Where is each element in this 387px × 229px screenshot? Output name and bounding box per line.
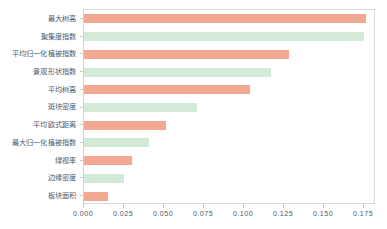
x-axis-tick-label: 0.075 (193, 209, 213, 218)
bar (84, 32, 364, 41)
y-axis-label: 斑块密度 (48, 98, 76, 116)
bar (84, 103, 197, 112)
x-axis-tick-mark (363, 204, 364, 208)
y-axis-label: 平均树高 (48, 80, 76, 98)
x-axis-tick-label: 0.150 (313, 209, 333, 218)
x-axis-tick-mark (243, 204, 244, 208)
bar (84, 85, 250, 94)
bar-series (84, 10, 374, 203)
bar-row (84, 99, 374, 117)
bar (84, 192, 108, 201)
x-axis-tick-mark (163, 204, 164, 208)
bar (84, 14, 366, 23)
bar (84, 156, 132, 165)
x-axis-tick-label: 0.175 (353, 209, 373, 218)
x-axis-tick-label: 0.125 (273, 209, 293, 218)
bar-row (84, 81, 374, 99)
x-axis-tick-mark (283, 204, 284, 208)
x-axis-tick-label: 0.025 (113, 209, 133, 218)
y-axis-label: 最大归一化植被指数 (12, 133, 76, 151)
y-axis-label: 平均归一化植被指数 (12, 44, 76, 62)
y-axis-label: 聚集度指数 (41, 27, 77, 45)
bar (84, 174, 124, 183)
horizontal-bar-chart: 最大树高聚集度指数平均归一化植被指数景观形状指数平均树高斑块密度平均欧式距离最大… (0, 0, 387, 229)
x-axis-tick-label: 0.000 (73, 209, 93, 218)
bar-row (84, 28, 374, 46)
y-axis-labels: 最大树高聚集度指数平均归一化植被指数景观形状指数平均树高斑块密度平均欧式距离最大… (0, 9, 80, 204)
x-axis-tick-mark (203, 204, 204, 208)
x-axis-tick-mark (123, 204, 124, 208)
y-axis-label: 绿视率 (55, 151, 76, 169)
bar-row (84, 10, 374, 28)
bar-row (84, 152, 374, 170)
y-axis-label: 板块面积 (48, 186, 76, 204)
y-axis-label: 边缘密度 (48, 169, 76, 187)
bar (84, 138, 149, 147)
bar-row (84, 45, 374, 63)
bar-row (84, 116, 374, 134)
x-axis: 0.0000.0250.0500.0750.1000.1250.1500.175 (83, 204, 375, 208)
bar-row (84, 134, 374, 152)
x-axis-tick-mark (83, 204, 84, 208)
x-axis-tick-label: 0.100 (233, 209, 253, 218)
y-axis-label: 景观形状指数 (33, 62, 76, 80)
x-axis-tick-label: 0.050 (153, 209, 173, 218)
plot-area (83, 9, 375, 204)
bar-row (84, 63, 374, 81)
x-axis-tick-mark (323, 204, 324, 208)
y-axis-label: 最大树高 (48, 9, 76, 27)
bar (84, 50, 289, 59)
bar (84, 68, 271, 77)
bar-row (84, 187, 374, 204)
bar (84, 121, 166, 130)
bar-row (84, 170, 374, 188)
y-axis-label: 平均欧式距离 (33, 115, 76, 133)
